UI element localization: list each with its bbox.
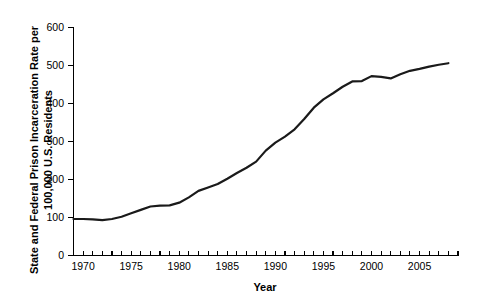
x-tick-marks <box>74 251 459 256</box>
y-tick-labels: 0 100 200 300 400 500 600 <box>46 21 64 261</box>
x-tick-label-1980: 1980 <box>168 260 192 272</box>
x-tick-label-1990: 1990 <box>264 260 288 272</box>
incarceration-rate-line <box>74 63 449 220</box>
x-tick-label-2005: 2005 <box>408 260 432 272</box>
chart-figure: State and Federal Prison Incarceration R… <box>0 0 478 305</box>
x-axis: 19701975198019851990199520002005 <box>71 251 458 272</box>
y-axis: 0 100 200 300 400 500 600 <box>46 21 73 261</box>
x-tick-label-2000: 2000 <box>360 260 384 272</box>
y-tick-marks <box>68 28 74 256</box>
x-tick-label-1970: 1970 <box>71 260 95 272</box>
y-tick-label-0: 0 <box>58 249 64 261</box>
y-tick-label-300: 300 <box>46 135 64 147</box>
y-axis-title-line1: State and Federal Prison Incarceration R… <box>28 25 40 274</box>
y-tick-label-100: 100 <box>46 211 64 223</box>
y-tick-label-600: 600 <box>46 21 64 33</box>
y-tick-label-400: 400 <box>46 97 64 109</box>
x-tick-label-1985: 1985 <box>216 260 240 272</box>
y-tick-label-500: 500 <box>46 59 64 71</box>
x-tick-label-1975: 1975 <box>119 260 143 272</box>
y-tick-label-200: 200 <box>46 173 64 185</box>
x-tick-labels: 19701975198019851990199520002005 <box>71 260 431 272</box>
x-axis-title: Year <box>253 281 277 293</box>
x-tick-label-1995: 1995 <box>312 260 336 272</box>
chart-plot-area: State and Federal Prison Incarceration R… <box>0 0 478 305</box>
